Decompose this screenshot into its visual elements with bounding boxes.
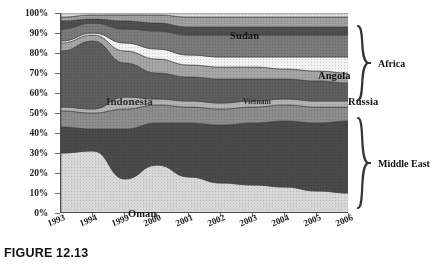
y-axis-tick-label: 70% (30, 68, 48, 78)
y-axis-tick-label: 0% (34, 208, 48, 218)
y-axis-tick-label: 30% (30, 148, 48, 158)
y-axis-tick-label: 100% (25, 8, 48, 18)
y-axis-tick-label: 40% (30, 128, 48, 138)
y-axis-tick-label: 20% (30, 168, 48, 178)
series-label-indonesia: Indonesia (106, 95, 153, 107)
x-axis-tick-label: 1999 (110, 212, 130, 228)
figure-caption: FIGURE 12.13 (4, 246, 88, 260)
group-label-africa: Africa (378, 58, 405, 69)
y-axis-tick-label: 60% (30, 88, 48, 98)
figure-container: 100%90%80%70%60%50%40%30%20%10%0% SudanA… (0, 0, 445, 268)
y-axis: 100%90%80%70%60%50%40%30%20%10%0% (0, 0, 58, 222)
series-label-sudan: Sudan (230, 30, 259, 41)
series-label-angola: Angola (318, 70, 351, 81)
series-label-saudi-arabia: Saudi Arabia (253, 176, 311, 187)
x-axis-tick-label: 2004 (270, 212, 290, 228)
middle-east-bracket (355, 116, 371, 210)
x-axis-tick-label: 2002 (206, 212, 226, 228)
series-label-vietnam: Vietnam (243, 97, 271, 106)
x-axis-tick-label: 2005 (302, 212, 322, 228)
group-label-middle-east: Middle East (378, 158, 430, 169)
series-label-iran: Iran (215, 136, 234, 147)
x-axis-tick-label: 2003 (238, 212, 258, 228)
africa-bracket (355, 24, 371, 102)
y-axis-tick-label: 90% (30, 28, 48, 38)
x-axis-tick-label: 2001 (174, 212, 194, 228)
x-axis-tick-label: 1994 (78, 212, 98, 228)
y-axis-tick-label: 50% (30, 108, 48, 118)
y-axis-tick-label: 10% (30, 188, 48, 198)
y-axis-tick-label: 80% (30, 48, 48, 58)
x-axis-tick-label: 2006 (334, 212, 354, 228)
